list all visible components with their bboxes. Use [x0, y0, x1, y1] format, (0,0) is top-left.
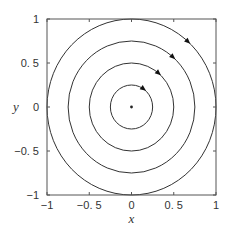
x-tick-label: 1 — [213, 199, 219, 211]
y-tick-label: 1 — [33, 13, 39, 25]
y-tick-label: −0. 5 — [14, 145, 39, 157]
x-tick-label: 0. 5 — [165, 199, 183, 211]
x-tick-labels: −1−0. 500. 51 — [41, 199, 219, 211]
x-axis-label: x — [128, 211, 135, 226]
y-tick-label: 0 — [33, 101, 39, 113]
equilibrium-point — [130, 106, 133, 109]
y-tick-label: 0. 5 — [21, 57, 39, 69]
x-tick-label: −1 — [41, 199, 54, 211]
y-tick-label: −1 — [26, 189, 39, 201]
phase-portrait-chart: −1−0. 500. 51 −1−0. 500. 51 x y — [0, 0, 232, 236]
x-tick-label: −0. 5 — [77, 199, 102, 211]
x-tick-label: 0 — [128, 199, 134, 211]
direction-arrows — [140, 38, 191, 91]
arrow-icon — [140, 85, 146, 91]
y-axis-label: y — [11, 99, 19, 114]
